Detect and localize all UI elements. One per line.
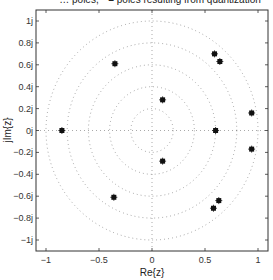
y-tick-label: 1j bbox=[26, 16, 33, 26]
x-tick-label: −1 bbox=[41, 255, 51, 265]
y-tick-label: 0.6j bbox=[18, 60, 33, 70]
x-tick-label: 0 bbox=[149, 255, 154, 265]
y-tick-label: 0.4j bbox=[18, 82, 33, 92]
y-tick-label: −0.4j bbox=[13, 169, 33, 179]
pole-marker bbox=[159, 158, 166, 165]
y-tick-label: 0j bbox=[26, 126, 33, 136]
x-tick-label: −0.5 bbox=[90, 255, 108, 265]
pole-marker bbox=[212, 127, 219, 134]
y-tick-label: −0.6j bbox=[13, 191, 33, 201]
chart-title: … poles, * = poles resulting from quanti… bbox=[59, 0, 261, 5]
pole-marker bbox=[248, 109, 255, 116]
pole-marker bbox=[216, 58, 223, 65]
y-axis-label: jIm{z} bbox=[2, 117, 13, 144]
y-tick-label: −1j bbox=[21, 235, 33, 245]
x-tick-label: 1 bbox=[255, 255, 260, 265]
pole-marker bbox=[248, 146, 255, 153]
y-tick-label: −0.8j bbox=[13, 213, 33, 223]
y-tick-label: 0.8j bbox=[18, 38, 33, 48]
pole-zero-plot: … poles, * = poles resulting from quanti… bbox=[0, 0, 273, 280]
pole-marker bbox=[110, 194, 117, 201]
pole-marker bbox=[210, 205, 217, 212]
pole-marker bbox=[111, 60, 118, 67]
chart-title-text: … poles, * = poles resulting from quanti… bbox=[59, 0, 261, 5]
y-tick-label: 0.2j bbox=[18, 104, 33, 114]
pole-marker bbox=[215, 197, 222, 204]
pole-marker bbox=[159, 96, 166, 103]
pole-marker bbox=[211, 50, 218, 57]
x-tick-label: 0.5 bbox=[199, 255, 212, 265]
x-axis-label: Re{z} bbox=[140, 267, 165, 278]
pole-marker bbox=[58, 127, 65, 134]
y-tick-label: −0.2j bbox=[13, 147, 33, 157]
